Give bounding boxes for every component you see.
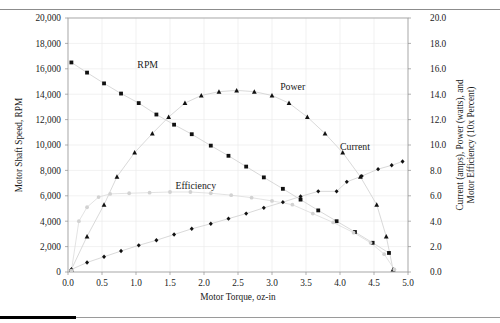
data-point-rpm [387, 251, 391, 255]
x-tick-label: 0.5 [96, 278, 108, 288]
data-point-current [119, 249, 123, 253]
data-point-current [154, 238, 158, 242]
data-point-rpm [155, 113, 159, 117]
y-right-tick-label: 2.0 [430, 242, 442, 252]
page-rule-bottom-thick [0, 316, 76, 319]
x-tick-label: 2.0 [198, 278, 210, 288]
data-point-rpm [70, 61, 74, 65]
data-point-efficiency [369, 241, 373, 245]
y-left-tick-label: 0 [56, 267, 61, 277]
y-left-tick-label: 16,000 [35, 64, 61, 74]
y-axis-left-title: Motor Shaft Speed, RPM [14, 98, 24, 193]
y-right-tick-label: 4.0 [430, 217, 442, 227]
data-point-current [262, 206, 266, 210]
x-tick-label: 2.5 [232, 278, 244, 288]
data-point-power [183, 101, 188, 106]
x-axis-ticks: 0.00.51.01.52.02.53.03.54.04.55.0 [62, 272, 414, 288]
data-point-efficiency [148, 191, 152, 195]
series-markers [69, 61, 405, 273]
data-point-current [172, 232, 176, 236]
data-point-power [287, 101, 292, 106]
data-point-efficiency [382, 252, 386, 256]
data-point-rpm [281, 187, 285, 191]
data-point-current [85, 260, 89, 264]
data-point-rpm [102, 82, 106, 86]
data-point-efficiency [85, 205, 89, 209]
x-tick-label: 4.0 [334, 278, 346, 288]
series-label-power: Power [280, 81, 306, 92]
data-point-rpm [172, 123, 176, 127]
series-line-efficiency [71, 192, 394, 271]
y-right-tick-label: 6.0 [430, 191, 442, 201]
data-point-current [190, 227, 194, 231]
data-point-efficiency [331, 221, 335, 225]
y-right-tick-label: 0.0 [430, 267, 442, 277]
series-label-current: Current [340, 141, 370, 152]
data-point-rpm [119, 92, 123, 96]
x-tick-label: 3.0 [266, 278, 278, 288]
data-point-efficiency [229, 193, 233, 197]
data-point-power [305, 115, 310, 120]
data-point-efficiency [250, 196, 254, 200]
y-right-tick-label: 14.0 [430, 90, 447, 100]
y-right-tick-label: 8.0 [430, 166, 442, 176]
data-point-efficiency [291, 203, 295, 207]
data-point-rpm [262, 175, 266, 179]
x-tick-label: 4.5 [368, 278, 380, 288]
y-left-tick-label: 2,000 [40, 242, 61, 252]
data-point-rpm [209, 144, 213, 148]
data-point-efficiency [108, 192, 112, 196]
data-point-rpm [316, 209, 320, 213]
series-label-rpm: RPM [137, 59, 158, 70]
y-axis-left-ticks: 02,0004,0006,0008,00010,00012,00014,0001… [35, 13, 68, 277]
x-tick-label: 0.0 [62, 278, 74, 288]
data-point-rpm [137, 101, 141, 105]
data-point-current [226, 216, 230, 220]
data-point-power [85, 234, 90, 239]
y-left-tick-label: 18,000 [35, 39, 61, 49]
x-tick-label: 1.5 [164, 278, 176, 288]
y-axis-right-title-line1: Current (amps), Power (watts), and [455, 79, 466, 211]
data-point-current [102, 255, 106, 259]
data-point-efficiency [311, 212, 315, 216]
data-point-efficiency [393, 268, 397, 272]
x-tick-label: 3.5 [300, 278, 312, 288]
data-point-efficiency [168, 190, 172, 194]
y-right-tick-label: 20.0 [430, 13, 447, 23]
data-point-power [384, 234, 389, 239]
data-point-efficiency [209, 191, 213, 195]
y-axis-right-title-line2: Motor Efficiency (10x Percent) [466, 87, 477, 204]
data-point-current [244, 211, 248, 215]
y-axis-right-ticks: 0.02.04.06.08.010.012.014.016.018.020.0 [408, 13, 447, 277]
x-tick-label: 1.0 [130, 278, 142, 288]
motor-performance-chart: 0.00.51.01.52.02.53.03.54.04.55.0 02,000… [0, 0, 500, 312]
data-point-power [102, 202, 107, 207]
data-point-rpm [335, 219, 339, 223]
page-rule-top [0, 9, 500, 10]
data-point-current [316, 189, 320, 193]
data-point-rpm [85, 71, 89, 75]
data-point-efficiency [97, 195, 101, 199]
data-point-efficiency [352, 231, 356, 235]
y-left-tick-label: 14,000 [35, 90, 61, 100]
y-left-tick-label: 12,000 [35, 115, 61, 125]
y-right-tick-label: 16.0 [430, 64, 447, 74]
series-line-power [71, 90, 393, 269]
data-point-power [234, 88, 239, 93]
data-point-efficiency [70, 269, 74, 273]
page-rule-bottom-thin [76, 317, 500, 318]
data-point-efficiency [270, 199, 274, 203]
series-label-efficiency: Efficiency [175, 180, 216, 191]
x-tick-label: 5.0 [402, 278, 414, 288]
data-point-current [401, 159, 405, 163]
y-left-tick-label: 10,000 [35, 140, 61, 150]
series-line-current [71, 162, 402, 270]
data-point-rpm [190, 132, 194, 136]
x-axis-title: Motor Torque, oz-in [200, 292, 276, 302]
data-point-current [390, 163, 394, 167]
motor-performance-figure: 0.00.51.01.52.02.53.03.54.04.55.0 02,000… [0, 0, 500, 323]
y-left-tick-label: 8,000 [40, 166, 61, 176]
data-point-efficiency [77, 219, 81, 223]
y-left-tick-label: 6,000 [40, 191, 61, 201]
data-point-rpm [227, 154, 231, 158]
